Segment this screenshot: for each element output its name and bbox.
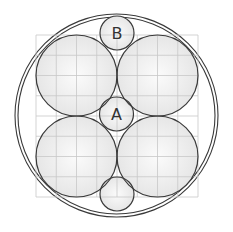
circle-packing-diagram: B A <box>0 0 233 232</box>
diagram-svg: B A <box>0 0 233 232</box>
label-a: A <box>111 105 122 124</box>
label-b: B <box>112 24 123 43</box>
